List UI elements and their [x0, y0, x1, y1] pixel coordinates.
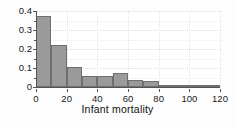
gridline-x: [159, 11, 160, 87]
plot-area: [36, 11, 220, 87]
y-tick-mark-minor: [34, 40, 36, 41]
x-tick-mark: [97, 89, 98, 92]
gridline-x: [128, 11, 129, 87]
gridline-x: [189, 11, 190, 87]
histogram-bar: [36, 16, 51, 87]
y-tick-mark: [33, 30, 36, 31]
histogram-bar: [67, 67, 82, 87]
x-axis-title: Infant mortality: [0, 103, 235, 115]
y-axis: 00.10.20.30.4: [36, 11, 37, 87]
y-tick-label: 0.1: [19, 63, 32, 73]
x-axis: 020406080100120: [36, 87, 220, 88]
histogram-figure: 00.10.20.30.4 020406080100120 Infant mor…: [0, 0, 235, 129]
x-tick-mark: [189, 89, 190, 92]
histogram-bar: [51, 45, 66, 87]
y-tick-label: 0: [27, 82, 32, 92]
x-tick-mark: [159, 89, 160, 92]
y-tick-mark: [33, 68, 36, 69]
histogram-bar: [128, 80, 143, 87]
y-tick-mark-minor: [34, 21, 36, 22]
histogram-bar: [113, 73, 128, 87]
y-tick-mark-minor: [34, 78, 36, 79]
y-tick-label: 0.4: [19, 6, 32, 16]
x-tick-mark: [67, 89, 68, 92]
y-tick-mark: [33, 49, 36, 50]
y-tick-mark: [33, 11, 36, 12]
y-tick-mark-minor: [34, 59, 36, 60]
gridline-x: [220, 11, 221, 87]
x-tick-mark: [220, 89, 221, 92]
histogram-bar: [97, 76, 112, 87]
x-tick-mark: [36, 89, 37, 92]
y-tick-label: 0.3: [19, 25, 32, 35]
histogram-bar: [82, 76, 97, 87]
y-tick-label: 0.2: [19, 44, 32, 54]
x-tick-mark: [128, 89, 129, 92]
